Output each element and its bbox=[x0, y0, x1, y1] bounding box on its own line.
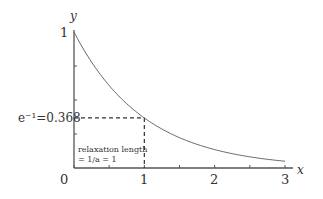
y-tick-label-1: 1 bbox=[60, 25, 68, 40]
x-tick-label-1: 1 bbox=[140, 172, 148, 187]
x-tick-label-2: 2 bbox=[210, 172, 218, 187]
relaxation-label-line2: = 1/a = 1 bbox=[78, 155, 117, 164]
labels-layer: y x 1 0 1 2 3 e⁻¹=0.368 relaxation lengt… bbox=[18, 9, 304, 187]
x-tick-label-3: 3 bbox=[281, 172, 289, 187]
y-axis-label: y bbox=[69, 9, 77, 23]
x-axis-label: x bbox=[297, 163, 304, 177]
chart: y x 1 0 1 2 3 e⁻¹=0.368 relaxation lengt… bbox=[0, 0, 323, 199]
y-marker-label: e⁻¹=0.368 bbox=[18, 111, 81, 125]
relaxation-label-line1: relaxation length bbox=[78, 145, 147, 154]
exp-decay-curve bbox=[74, 32, 285, 161]
origin-label: 0 bbox=[60, 172, 68, 187]
